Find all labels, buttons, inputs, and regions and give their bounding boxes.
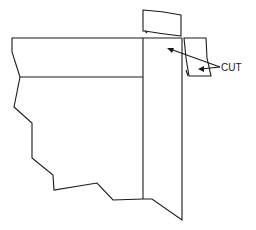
top-cut-piece xyxy=(143,10,181,36)
cut-leaders xyxy=(167,48,220,72)
right-cut-piece xyxy=(184,38,211,76)
cut-label: CUT xyxy=(221,62,242,73)
main-panel-outline xyxy=(12,38,182,220)
diagram-canvas: CUT xyxy=(0,0,256,230)
arrowhead-icon xyxy=(198,66,204,72)
arrowhead-icon xyxy=(167,48,174,53)
